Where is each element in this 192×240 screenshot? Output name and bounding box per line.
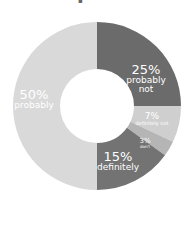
slice-caption: not: [126, 85, 166, 94]
slice-label-probably-not: 25% probably not: [126, 63, 166, 94]
slice-caption: definitely: [97, 163, 139, 172]
slice-label-definitely-not: 7% definitely not: [135, 112, 168, 126]
slice-caption: don't: [139, 145, 150, 149]
slice-label-probably: 50% probably: [14, 88, 54, 110]
slice-caption: definitely not: [135, 121, 168, 126]
slice-label-dont-know: 3% don't: [139, 138, 150, 149]
slice-caption: probably: [14, 101, 54, 110]
slice-label-definitely: 15% definitely: [97, 150, 139, 172]
